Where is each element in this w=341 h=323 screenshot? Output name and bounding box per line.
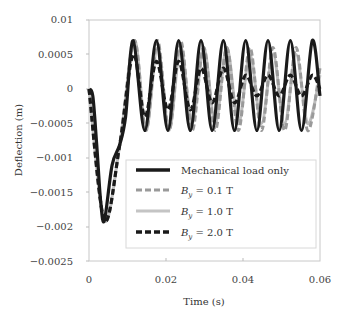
y-tick-label: −0.0025 <box>30 256 73 267</box>
y-tick-label: 0 <box>67 83 73 94</box>
y-axis-title: Deflection (m) <box>13 104 24 176</box>
x-tick-label: 0.06 <box>309 274 331 285</box>
y-tick-label: 0.0005 <box>38 49 73 60</box>
x-axis-title: Time (s) <box>183 296 224 307</box>
y-tick-label: −0.002 <box>36 221 73 232</box>
y-tick-label: −0.0005 <box>30 118 73 129</box>
legend-label-mechanical: Mechanical load only <box>181 165 289 176</box>
x-tick-label: 0.02 <box>155 274 177 285</box>
y-tick-label: 0.01 <box>51 14 73 25</box>
y-tick-label: −0.0015 <box>30 187 73 198</box>
y-tick-label: −0.001 <box>36 152 73 163</box>
legend: Mechanical load only By = 0.1 T By = 1.0… <box>126 160 316 248</box>
x-tick-label: 0 <box>86 274 92 285</box>
y-axis: 0.01 0.0005 0 −0.0005 −0.001 −0.0015 −0.… <box>30 14 89 267</box>
x-tick-label: 0.04 <box>232 274 254 285</box>
deflection-chart: 0.01 0.0005 0 −0.0005 −0.001 −0.0015 −0.… <box>0 0 341 323</box>
x-axis: 0 0.02 0.04 0.06 <box>86 258 331 285</box>
